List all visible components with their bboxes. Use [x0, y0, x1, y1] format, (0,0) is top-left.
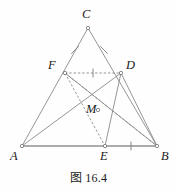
- vertex-dot-C: [86, 26, 89, 29]
- geometry-figure: C F D M A E B 图 16.4: [0, 0, 177, 190]
- vertex-label-M: M: [86, 103, 96, 116]
- segment-DE: [105, 73, 121, 146]
- solid-segments: [22, 28, 157, 146]
- vertex-dot-B: [155, 144, 158, 147]
- vertex-label-B: B: [161, 150, 169, 163]
- vertex-label-F: F: [48, 59, 56, 72]
- segment-CA: [22, 28, 88, 146]
- vertex-dot-F: [63, 71, 66, 74]
- tick-CF: [72, 47, 79, 54]
- vertex-label-E: E: [100, 150, 108, 163]
- vertex-label-A: A: [10, 150, 18, 163]
- vertex-dot-D: [119, 71, 122, 74]
- vertex-dot-M: [96, 108, 99, 111]
- vertex-label-D: D: [126, 59, 135, 72]
- vertex-label-C: C: [82, 8, 90, 21]
- vertex-dot-E: [103, 144, 106, 147]
- tick-CD: [101, 47, 108, 54]
- tick-marks: [72, 47, 132, 151]
- vertex-markers: [20, 26, 158, 147]
- geometry-diagram: [0, 0, 177, 190]
- segment-DB: [121, 73, 157, 146]
- segment-CB: [88, 28, 157, 146]
- figure-caption: 图 16.4: [0, 168, 177, 186]
- segment-AD: [22, 73, 121, 146]
- vertex-dot-A: [20, 144, 23, 147]
